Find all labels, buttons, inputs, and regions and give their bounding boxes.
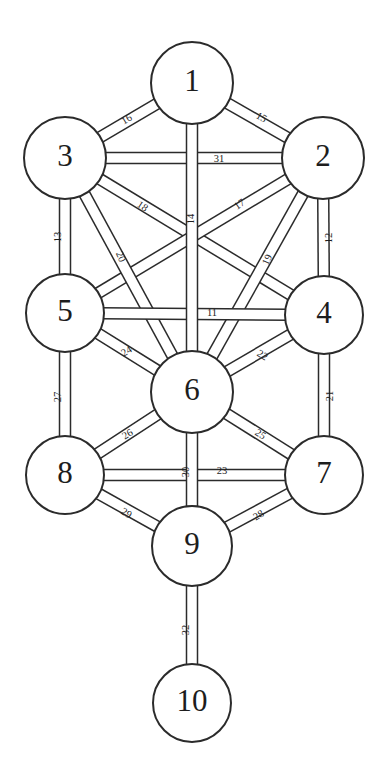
path-number-27: 27	[52, 392, 63, 403]
path-label-11: 11	[207, 307, 217, 318]
path-label-13: 13	[52, 232, 63, 243]
sephira-label-5: 5	[57, 293, 73, 328]
sephira-node-8[interactable]: 8	[26, 436, 104, 514]
sephira-label-2: 2	[315, 138, 331, 173]
path-label-30: 30	[180, 467, 191, 478]
path-number-13: 13	[52, 232, 63, 243]
path-label-27: 27	[52, 392, 63, 403]
sephira-label-1: 1	[184, 63, 200, 98]
path-number-11: 11	[207, 307, 217, 318]
sephira-node-2[interactable]: 2	[282, 117, 364, 199]
path-number-30: 30	[180, 467, 191, 478]
path-label-14: 14	[185, 213, 196, 224]
path-number-12: 12	[323, 233, 334, 244]
path-label-12: 12	[323, 233, 334, 244]
path-label-31: 31	[214, 153, 225, 164]
path-number-14: 14	[185, 213, 196, 224]
path-number-21: 21	[324, 391, 335, 402]
sephira-node-1[interactable]: 1	[151, 42, 233, 124]
sephira-node-6[interactable]: 6	[151, 351, 233, 433]
sephira-label-6: 6	[184, 372, 200, 407]
diagram-canvas: 12345678910 1112131415161718192021222324…	[0, 0, 385, 782]
sephira-label-10: 10	[177, 683, 208, 718]
sephira-node-3[interactable]: 3	[24, 117, 106, 199]
sephira-label-4: 4	[316, 295, 332, 330]
path-label-21: 21	[324, 391, 335, 402]
sephira-node-4[interactable]: 4	[285, 276, 363, 354]
sephira-node-9[interactable]: 9	[152, 506, 232, 586]
sephira-label-9: 9	[184, 526, 200, 561]
path-band-14[interactable]	[187, 121, 198, 354]
path-label-32: 32	[180, 625, 191, 636]
tree-of-life-diagram: 12345678910 1112131415161718192021222324…	[0, 0, 385, 782]
sephira-label-7: 7	[316, 455, 332, 490]
sephira-node-7[interactable]: 7	[285, 436, 363, 514]
path-number-31: 31	[214, 153, 225, 164]
path-number-32: 32	[180, 625, 191, 636]
sephira-label-8: 8	[57, 455, 73, 490]
path-label-23: 23	[217, 465, 228, 476]
path-number-23: 23	[217, 465, 228, 476]
sephira-node-5[interactable]: 5	[26, 274, 104, 352]
sephira-node-10[interactable]: 10	[153, 664, 231, 742]
sephira-label-3: 3	[57, 138, 73, 173]
